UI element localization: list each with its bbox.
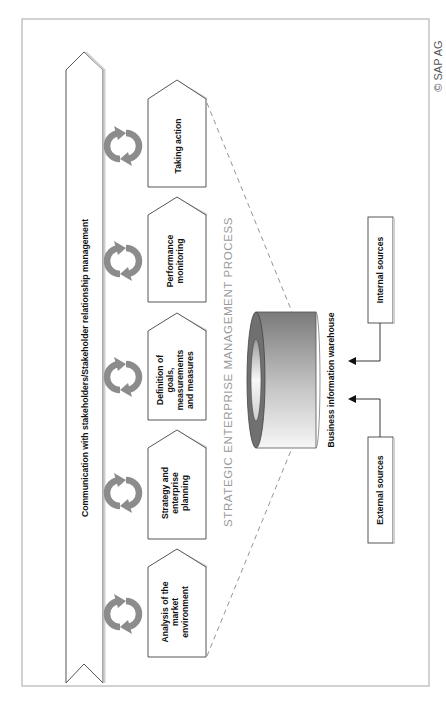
step-label-line: measurements — [175, 349, 185, 410]
cycle-icon — [107, 594, 139, 634]
step-label-line: Analysis of the — [160, 581, 170, 642]
warehouse-cylinder-icon — [247, 312, 320, 448]
process-step-definition-of-goals: Definition of goals, measurements and me… — [148, 313, 207, 420]
step-label-line: goals, — [165, 368, 175, 393]
arrow-icon — [348, 357, 356, 365]
step-label-line: market — [170, 598, 180, 626]
process-step-market-analysis: Analysis of the market environment — [148, 549, 207, 657]
arrow-icon — [348, 395, 356, 403]
external-sources-box: External sources — [368, 437, 394, 544]
funnel-line-bottom — [207, 448, 292, 656]
cycle-icon — [107, 473, 139, 513]
step-label-line: environment — [180, 586, 190, 638]
process-step-strategy-planning: Strategy and enterprise planning — [148, 430, 207, 539]
step-label: Taking action — [173, 119, 183, 174]
step-label-line: Performance — [165, 235, 175, 288]
step-label-line: and measures — [185, 351, 195, 409]
step-label-line: enterprise — [170, 472, 180, 514]
step-label-line: Strategy and — [160, 467, 170, 519]
cycle-icon — [107, 126, 139, 166]
strategic-enterprise-management-diagram: © SAP AG Communication with stakeholders… — [0, 0, 446, 704]
cycle-icon — [107, 241, 139, 281]
step-label-line: monitoring — [175, 239, 185, 284]
funnel-line-top — [207, 103, 292, 312]
process-title: STRATEGIC ENTERPRISE MANAGEMENT PROCESS — [222, 217, 234, 527]
external-connector — [355, 399, 380, 437]
internal-sources-label: Internal sources — [375, 237, 385, 304]
banner-label: Communication with stakeholders/Stakehol… — [80, 219, 90, 517]
cycle-icon — [107, 357, 139, 397]
warehouse-label: Business information warehouse — [326, 312, 336, 447]
process-step-taking-action: Taking action — [148, 80, 207, 187]
external-sources-label: External sources — [375, 455, 385, 524]
step-label-line: planning — [180, 475, 190, 511]
internal-connector — [355, 323, 380, 361]
step-label-line: Definition of — [155, 355, 165, 405]
copyright-label: © SAP AG — [432, 40, 444, 91]
process-step-performance-monitoring: Performance monitoring — [148, 197, 207, 302]
internal-sources-box: Internal sources — [368, 217, 394, 324]
